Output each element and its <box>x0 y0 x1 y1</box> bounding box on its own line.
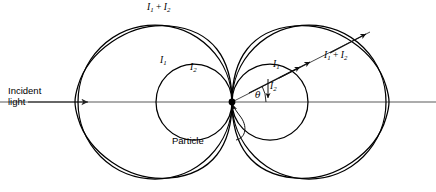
label-sum-top: I1 + I2 <box>147 2 170 13</box>
label-i1-ray: I1 <box>273 59 280 70</box>
label-i2-left: I2 <box>190 62 197 73</box>
i1-magnitude-arrow <box>279 62 310 78</box>
theta-arc <box>262 86 266 102</box>
label-incident-light: Incident light <box>8 86 41 108</box>
figure-canvas: I1 + I2 I1 + I2 I1 I2 I1 I2 θ Incident l… <box>0 0 436 192</box>
incident-line-1: Incident <box>8 85 41 96</box>
label-sum-right: I1 + I2 <box>324 50 347 61</box>
label-theta: θ <box>255 90 260 100</box>
scattering-diagram-svg <box>0 0 436 192</box>
label-i2-ray: I2 <box>270 81 277 92</box>
label-particle: Particle <box>172 136 204 147</box>
incident-line-2: light <box>8 97 41 108</box>
particle-dot <box>229 99 236 106</box>
label-i1-left: I1 <box>160 55 167 66</box>
